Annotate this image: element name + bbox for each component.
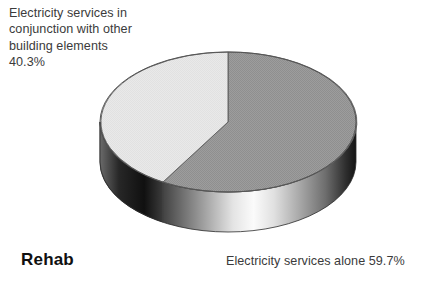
pie-chart-figure: Electricity services in conjunction with… [0, 0, 439, 284]
chart-title-rehab: Rehab [21, 250, 74, 270]
slice-label-electricity-alone: Electricity services alone 59.7% [226, 254, 405, 268]
pie-top-face [100, 52, 357, 192]
slice-callout-conjunction: Electricity services in conjunction with… [9, 5, 199, 70]
